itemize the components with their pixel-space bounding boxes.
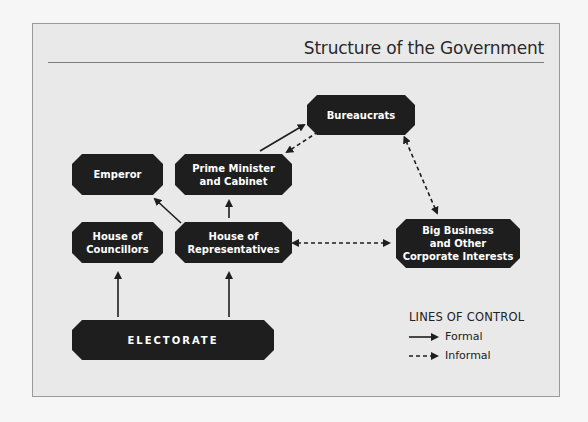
dashed-arrow-icon: [409, 351, 439, 361]
node-house-of-representatives: House of Representatives: [175, 222, 292, 263]
node-label: House of Representatives: [187, 230, 279, 256]
edge-representatives-to-emperor: [155, 199, 181, 223]
node-label: Prime Minister and Cabinet: [192, 162, 275, 188]
legend-item-formal: Formal: [409, 330, 483, 343]
node-label: House of Councillors: [86, 230, 148, 256]
legend-label: Formal: [445, 330, 483, 343]
edge-bureaucrats-big-business: [406, 141, 437, 213]
node-label: Emperor: [94, 168, 142, 181]
node-label: Big Business and Other Corporate Interes…: [403, 224, 514, 263]
edge-bureaucrats-to-pm: [287, 132, 318, 152]
node-house-of-councillors: House of Councillors: [72, 222, 163, 263]
edge-pm-to-bureaucrats: [260, 125, 304, 151]
legend-label: Informal: [445, 349, 491, 362]
node-bureaucrats: Bureaucrats: [307, 95, 415, 135]
node-label: ELECTORATE: [127, 334, 218, 347]
node-emperor: Emperor: [72, 154, 163, 195]
legend-title: LINES OF CONTROL: [409, 310, 524, 324]
solid-arrow-icon: [409, 332, 439, 342]
node-big-business: Big Business and Other Corporate Interes…: [396, 219, 520, 268]
node-electorate: ELECTORATE: [72, 320, 274, 360]
legend-item-informal: Informal: [409, 349, 491, 362]
node-prime-minister: Prime Minister and Cabinet: [175, 154, 292, 195]
node-label: Bureaucrats: [327, 109, 396, 122]
